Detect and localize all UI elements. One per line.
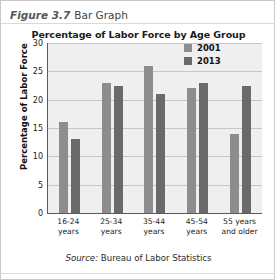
y-axis-tick-label: 30: [33, 39, 43, 48]
bar-chart: Percentage of Labor Force by Age Group P…: [8, 27, 269, 249]
bar-2001-25-34-years: [102, 83, 111, 213]
x-axis-labels: 16-24years25-34years35-44years45-54years…: [47, 217, 261, 237]
gridline: 0: [48, 213, 262, 214]
bar-2013-16-24-years: [71, 139, 80, 213]
x-axis-label-line: 45-54: [175, 217, 218, 227]
caption-divider: [1, 23, 275, 24]
x-axis-label-line: 25-34: [90, 217, 133, 227]
y-axis-tick-label: 5: [38, 180, 43, 189]
legend-swatch-icon: [184, 57, 192, 65]
bar-2001-55-years-and-older: [230, 134, 239, 213]
bar-2001-16-24-years: [59, 122, 68, 213]
y-axis-title: Percentage of Labor Force: [19, 50, 29, 170]
legend-swatch-icon: [184, 44, 192, 52]
source-label: Source:: [65, 253, 98, 263]
bar-group: [48, 43, 91, 213]
y-axis-tick-label: 20: [33, 95, 43, 104]
bar-series-container: [48, 43, 262, 213]
x-axis-label-line: 35-44: [133, 217, 176, 227]
bar-2013-55-years-and-older: [242, 86, 251, 214]
chart-title: Percentage of Labor Force by Age Group: [8, 29, 269, 40]
x-axis-label-line: 55 years: [218, 217, 261, 227]
x-axis-label: 16-24years: [47, 217, 90, 237]
figure-caption: Figure 3.7Bar Graph: [10, 9, 128, 21]
x-axis-label: 55 yearsand older: [218, 217, 261, 237]
x-axis-label: 35-44years: [133, 217, 176, 237]
bar-2001-45-54-years: [187, 88, 196, 213]
figure-page: Figure 3.7Bar Graph Percentage of Labor …: [0, 0, 275, 280]
source-note: Source: Bureau of Labor Statistics: [1, 253, 275, 263]
x-axis-label: 45-54years: [175, 217, 218, 237]
bar-group: [219, 43, 262, 213]
chart-legend: 20012013: [184, 43, 221, 69]
bar-2013-45-54-years: [199, 83, 208, 213]
x-axis-label-line: years: [47, 227, 90, 237]
y-axis-tick-label: 10: [33, 152, 43, 161]
bottom-divider: [1, 273, 275, 274]
x-axis-label-line: years: [175, 227, 218, 237]
legend-label: 2001: [197, 43, 221, 53]
legend-item-2013: 2013: [184, 56, 221, 66]
legend-label: 2013: [197, 56, 221, 66]
plot-area: 051015202530: [47, 43, 262, 214]
bar-2013-35-44-years: [156, 94, 165, 213]
bar-group: [91, 43, 134, 213]
source-text: Bureau of Labor Statistics: [101, 253, 212, 263]
figure-caption-title: Bar Graph: [74, 9, 128, 21]
y-axis-tick-label: 15: [33, 124, 43, 133]
x-axis-label-line: years: [90, 227, 133, 237]
y-axis-tick-label: 0: [38, 209, 43, 218]
legend-item-2001: 2001: [184, 43, 221, 53]
x-axis-label-line: 16-24: [47, 217, 90, 227]
x-axis-label-line: years: [133, 227, 176, 237]
bar-2013-25-34-years: [114, 86, 123, 214]
y-axis-tick-label: 25: [33, 67, 43, 76]
figure-number: Figure 3.7: [10, 9, 70, 21]
bar-group: [134, 43, 177, 213]
bar-2001-35-44-years: [144, 66, 153, 213]
x-axis-label: 25-34years: [90, 217, 133, 237]
x-axis-label-line: and older: [218, 227, 261, 237]
